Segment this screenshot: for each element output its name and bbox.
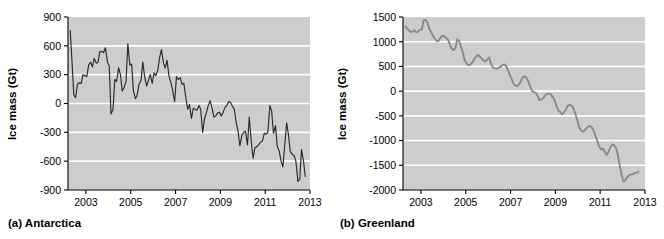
y-tick-label: -900 <box>40 184 61 196</box>
y-tick-label: 1500 <box>373 11 397 23</box>
panel-caption-a: (a) Antarctica <box>8 217 81 229</box>
y-axis-title-b: Ice mass (Gt) <box>336 68 348 140</box>
y-tick-label: -1500 <box>369 159 396 171</box>
x-tick-label: 2007 <box>499 196 523 208</box>
x-tick-label: 2013 <box>633 196 657 208</box>
chart-greenland: 150010005000-500-1000-1500-2000 20032005… <box>332 0 664 210</box>
y-tick-label: 500 <box>378 60 396 72</box>
ice-mass-figure: 9006003000-300-600-900 20032005200720092… <box>0 0 664 239</box>
x-tick-labels-a: 200320052007200920112013 <box>74 196 322 208</box>
y-tick-label: -500 <box>375 110 396 122</box>
x-tick-label: 2011 <box>254 196 277 208</box>
y-tick-label: -300 <box>40 126 61 138</box>
panel-caption-b: (b) Greenland <box>340 217 415 229</box>
x-tick-label: 2013 <box>298 196 322 208</box>
plot-background-b <box>403 17 645 190</box>
y-tick-label: 0 <box>55 97 61 109</box>
panel-antarctica: 9006003000-300-600-900 20032005200720092… <box>0 0 332 239</box>
x-tick-label: 2011 <box>589 196 612 208</box>
x-tick-label: 2003 <box>74 196 98 208</box>
x-tick-label: 2005 <box>454 196 478 208</box>
y-tick-label: 0 <box>390 85 396 97</box>
y-tick-label: 600 <box>43 40 61 52</box>
y-tick-label: -2000 <box>369 184 396 196</box>
y-tick-labels-a: 9006003000-300-600-900 <box>40 11 61 196</box>
x-tick-label: 2009 <box>544 196 568 208</box>
y-tick-label: 1000 <box>373 36 397 48</box>
y-axis-title-a: Ice mass (Gt) <box>6 68 18 140</box>
y-tick-label: -600 <box>40 155 61 167</box>
x-tick-label: 2003 <box>409 196 433 208</box>
y-tick-label: -1000 <box>369 134 396 146</box>
x-tick-label: 2005 <box>119 196 143 208</box>
y-tick-labels-b: 150010005000-500-1000-1500-2000 <box>369 11 396 196</box>
x-tick-label: 2007 <box>164 196 188 208</box>
x-tick-label: 2009 <box>209 196 233 208</box>
y-tick-label: 300 <box>43 68 61 80</box>
y-tick-label: 900 <box>43 11 61 23</box>
chart-antarctica: 9006003000-300-600-900 20032005200720092… <box>0 0 332 210</box>
x-tick-labels-b: 200320052007200920112013 <box>409 196 657 208</box>
panel-greenland: 150010005000-500-1000-1500-2000 20032005… <box>332 0 664 239</box>
